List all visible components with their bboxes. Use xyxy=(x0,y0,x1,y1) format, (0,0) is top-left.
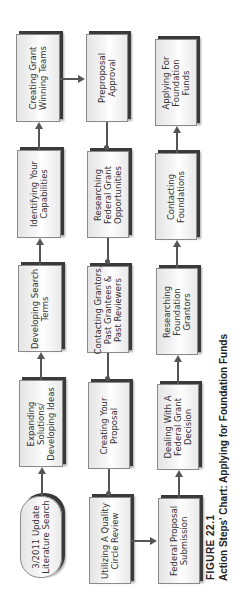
connector-line xyxy=(38,128,40,150)
arrow-right-icon xyxy=(150,537,157,545)
connector-line xyxy=(176,246,178,268)
node-applying-foundation: Applying For Foundation Funds xyxy=(155,39,197,126)
node-label: Applying For Foundation Funds xyxy=(161,56,191,109)
node-contacting-foundations: Contacting Foundations xyxy=(155,153,197,240)
node-federal-decision: Dealing With A Federal Grant Decision xyxy=(157,384,199,470)
connector-dot-icon xyxy=(105,259,110,264)
connector-line xyxy=(60,78,79,80)
figure-title: Action Steps' Chart: Applying for Founda… xyxy=(218,334,229,581)
arrow-up-icon xyxy=(173,240,181,247)
node-label: Researching Federal Grant Opportunities xyxy=(93,165,123,223)
node-identifying-capabilities: Identifying Your Capabilities xyxy=(17,150,61,238)
node-creating-proposal: Creating Your Proposal xyxy=(88,382,130,469)
connector-line xyxy=(131,540,151,542)
connector-dot-icon xyxy=(104,145,109,150)
connector-line xyxy=(41,473,43,496)
node-label: Developing Search Terms xyxy=(30,268,50,348)
node-researching-federal: Researching Federal Grant Opportunities xyxy=(87,151,129,238)
connector-dot-icon xyxy=(106,491,111,496)
arrow-up-icon xyxy=(35,122,43,129)
node-quality-circle: Utilizing A Quality Circle Review xyxy=(89,497,131,584)
figure-number: FIGURE 22.1 xyxy=(205,514,216,580)
node-creating-grant-teams: Creating Grant Winning Teams xyxy=(16,34,60,122)
arrow-up-icon xyxy=(175,470,183,477)
node-label: 3/2011 Update Literature Search xyxy=(31,500,51,574)
node-label: Researching Foundation Grantors xyxy=(162,285,192,337)
connector-dot-icon xyxy=(105,376,110,381)
arrow-up-icon xyxy=(38,467,46,474)
node-label: Identifying Your Capabilities xyxy=(29,161,49,227)
node-label: Dealing With A Federal Grant Decision xyxy=(163,395,193,458)
node-label: Contacting Foundations xyxy=(166,171,186,223)
node-label: Creating Grant Winning Teams xyxy=(28,46,48,110)
node-label: Preproposal Approval xyxy=(97,53,117,103)
node-literature-search: 3/2011 Update Literature Search xyxy=(20,496,62,578)
node-federal-submission: Federal Proposal Submission xyxy=(158,498,200,584)
connector-line xyxy=(178,476,180,498)
node-expanding-solutions: Expanding Solutions/ Developing Ideas xyxy=(19,380,63,467)
node-label: Creating Your Proposal xyxy=(99,397,119,454)
node-label: Contacting Grantors, Past Grantees & Pas… xyxy=(93,265,123,354)
connector-line xyxy=(39,244,41,265)
arrow-up-icon xyxy=(37,352,45,359)
arrow-right-icon xyxy=(78,75,85,83)
node-researching-foundation: Researching Foundation Grantors xyxy=(156,268,198,355)
arrow-up-icon xyxy=(36,238,44,245)
node-developing-search-terms: Developing Search Terms xyxy=(18,265,62,352)
node-contacting-grantors: Contacting Grantors, Past Grantees & Pas… xyxy=(87,266,129,353)
arrow-up-icon xyxy=(174,355,182,362)
connector-line xyxy=(40,358,42,380)
connector-line xyxy=(176,132,178,153)
node-label: Expanding Solutions/ Developing Ideas xyxy=(26,387,56,461)
node-preproposal-approval: Preproposal Approval xyxy=(86,34,128,122)
arrow-up-icon xyxy=(173,126,181,133)
node-label: Federal Proposal Submission xyxy=(169,506,189,576)
node-label: Utilizing A Quality Circle Review xyxy=(100,503,120,579)
connector-line xyxy=(177,361,179,384)
